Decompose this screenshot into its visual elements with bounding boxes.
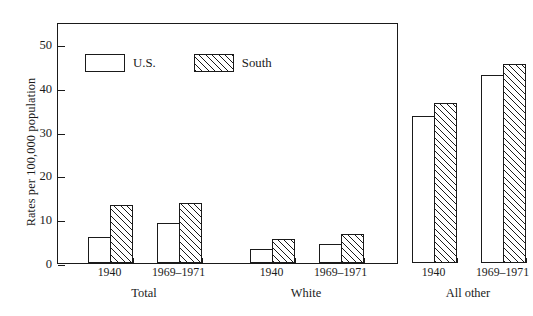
y-axis-tick: [58, 265, 65, 266]
x-axis-period-label: 1969–1971: [453, 267, 533, 279]
x-axis-tick: [133, 258, 134, 263]
bar-south: [272, 239, 295, 263]
y-axis-tick: [58, 90, 65, 91]
bar-us: [319, 244, 342, 263]
y-axis-tick-label: 40: [12, 83, 52, 96]
bar-us: [157, 223, 180, 263]
y-axis-title: Rates per 100,000 population: [22, 27, 40, 277]
x-axis-group-label: Total: [84, 287, 204, 299]
x-axis-group-label: All other: [408, 287, 528, 299]
bar-us: [250, 249, 273, 263]
x-axis-tick: [295, 258, 296, 263]
legend-swatch-us-icon: [85, 54, 125, 72]
bar-us: [88, 237, 111, 263]
y-axis-tick: [58, 134, 65, 135]
bar-south: [110, 205, 133, 263]
y-axis-tick-label: 30: [12, 127, 52, 140]
y-axis-tick-label: 50: [12, 39, 52, 52]
y-axis-tick: [58, 46, 65, 47]
x-axis-group-label: White: [246, 287, 366, 299]
bar-south: [434, 103, 457, 263]
y-axis-tick-label: 20: [12, 170, 52, 183]
x-axis-period-label: 1969–1971: [291, 267, 391, 279]
bar-us: [412, 116, 435, 263]
legend-label: U.S.: [133, 57, 156, 70]
legend-entry: South: [194, 54, 272, 72]
x-axis-tick: [526, 258, 527, 263]
y-axis-tick-label: 0: [12, 258, 52, 271]
bar-south: [503, 64, 526, 263]
bar-south: [179, 203, 202, 263]
y-axis-tick: [58, 177, 65, 178]
bar-south: [341, 234, 364, 263]
y-axis-tick-label: 10: [12, 214, 52, 227]
bar-us: [481, 75, 504, 263]
legend-entry: U.S.: [85, 54, 156, 72]
x-axis-tick: [364, 258, 365, 263]
legend-swatch-south-icon: [194, 54, 234, 72]
x-axis-tick: [202, 258, 203, 263]
legend-label: South: [242, 57, 272, 70]
x-axis-period-label: 1969–1971: [129, 267, 229, 279]
y-axis-tick: [58, 221, 65, 222]
x-axis-tick: [457, 258, 458, 263]
legend: U.S.South: [85, 54, 272, 72]
